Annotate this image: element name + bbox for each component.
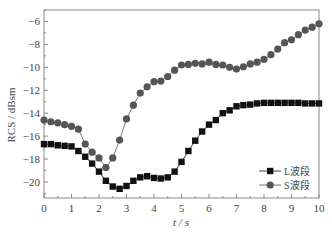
data-point-circle: [137, 90, 144, 97]
data-point-square: [75, 148, 81, 154]
y-tick-label: −20: [23, 176, 41, 188]
data-point-square: [295, 100, 301, 106]
data-point-circle: [68, 123, 75, 130]
x-tick-label: 8: [261, 202, 267, 214]
data-point-square: [151, 175, 157, 181]
data-point-square: [275, 100, 281, 106]
x-tick-label: 0: [41, 202, 47, 214]
x-axis: 012345678910: [41, 194, 325, 214]
data-point-circle: [116, 137, 123, 144]
data-point-circle: [192, 60, 199, 67]
y-tick-label: −14: [23, 107, 41, 119]
data-point-circle: [82, 141, 89, 148]
data-point-circle: [171, 67, 178, 74]
data-point-circle: [102, 164, 109, 171]
data-point-circle: [185, 61, 192, 68]
data-point-circle: [95, 154, 102, 161]
y-tick-label: −12: [23, 84, 40, 96]
data-point-circle: [109, 154, 116, 161]
y-tick-label: −8: [28, 38, 40, 50]
data-point-circle: [295, 31, 302, 38]
x-tick-label: 3: [124, 202, 130, 214]
data-point-circle: [260, 56, 267, 63]
data-point-circle: [247, 60, 254, 67]
x-tick-label: 9: [289, 202, 295, 214]
data-point-circle: [219, 61, 226, 68]
series-layer: [40, 20, 322, 192]
data-point-circle: [267, 51, 274, 58]
data-point-circle: [315, 20, 322, 27]
y-tick-label: −18: [23, 153, 41, 165]
data-point-square: [199, 128, 205, 134]
data-point-square: [247, 101, 253, 107]
data-point-square: [137, 174, 143, 180]
data-point-square: [220, 110, 226, 116]
data-point-square: [288, 100, 294, 106]
data-point-square: [41, 141, 47, 147]
data-point-circle: [150, 78, 157, 85]
data-point-circle: [274, 45, 281, 52]
data-point-square: [240, 102, 246, 108]
data-point-square: [123, 183, 129, 189]
data-point-circle: [123, 115, 130, 122]
data-point-square: [254, 100, 260, 106]
data-point-square: [89, 160, 95, 166]
data-point-circle: [288, 36, 295, 43]
legend-square-marker-icon: [267, 168, 273, 174]
legend-label: L波段: [284, 165, 310, 177]
data-point-circle: [164, 73, 171, 80]
data-point-square: [55, 142, 61, 148]
y-axis-title: RCS / dBsm: [5, 87, 17, 142]
data-point-circle: [226, 64, 233, 71]
y-tick-label: −10: [23, 61, 41, 73]
data-point-circle: [89, 149, 96, 156]
legend-label: S波段: [284, 179, 310, 191]
data-point-square: [48, 141, 54, 147]
data-point-square: [192, 137, 198, 143]
data-point-square: [206, 121, 212, 127]
data-point-square: [233, 103, 239, 109]
data-point-circle: [54, 119, 61, 126]
data-point-square: [144, 173, 150, 179]
x-tick-label: 4: [151, 202, 157, 214]
x-tick-label: 2: [96, 202, 102, 214]
data-point-circle: [240, 63, 247, 70]
x-tick-label: 6: [206, 202, 212, 214]
data-point-circle: [302, 26, 309, 33]
data-point-circle: [144, 83, 151, 90]
legend-item-l-band: L波段: [259, 165, 310, 177]
data-point-square: [316, 100, 322, 106]
x-tick-label: 1: [69, 202, 75, 214]
data-point-square: [171, 168, 177, 174]
data-point-circle: [130, 102, 137, 109]
series-s-band: [40, 20, 322, 171]
data-point-circle: [178, 61, 185, 68]
data-point-square: [110, 183, 116, 189]
data-point-circle: [61, 121, 68, 128]
legend-circle-marker-icon: [267, 181, 274, 188]
x-tick-label: 10: [314, 202, 326, 214]
data-point-square: [261, 100, 267, 106]
data-point-circle: [309, 24, 316, 31]
data-point-circle: [233, 65, 240, 72]
rcs-line-chart: 012345678910 −6−8−10−12−14−16−18−20 t / …: [0, 0, 332, 233]
data-point-square: [61, 143, 67, 149]
y-tick-label: −6: [28, 15, 40, 27]
data-point-square: [268, 100, 274, 106]
data-point-square: [226, 107, 232, 113]
x-axis-title: t / s: [173, 216, 189, 228]
data-point-square: [165, 174, 171, 180]
x-tick-label: 7: [234, 202, 240, 214]
data-point-square: [309, 100, 315, 106]
data-point-circle: [212, 61, 219, 68]
data-point-circle: [254, 59, 261, 66]
y-tick-label: −16: [23, 130, 41, 142]
data-point-square: [185, 148, 191, 154]
data-point-circle: [47, 118, 54, 125]
legend-item-s-band: S波段: [259, 179, 310, 191]
data-point-square: [96, 168, 102, 174]
data-point-circle: [205, 59, 212, 66]
data-point-circle: [199, 60, 206, 67]
data-point-square: [130, 178, 136, 184]
legend: L波段S波段: [259, 165, 310, 191]
